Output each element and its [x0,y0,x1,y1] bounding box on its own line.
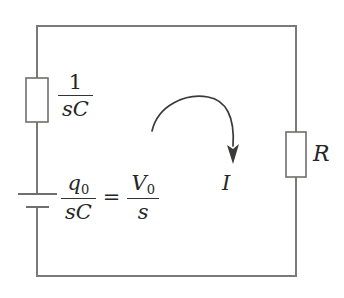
current-label: I [222,173,230,194]
source-left-denominator-s: s [65,200,76,224]
resistor-box [286,132,306,177]
source-right-numerator-v: V [131,171,146,195]
fraction-bar [127,198,158,199]
capacitor-denominator: sC [58,97,93,120]
source-left-numerator-q: q [68,171,81,195]
current-arrow-arc [152,96,233,146]
source-left-numerator-subscript: 0 [81,182,89,197]
fraction-bar [61,198,96,199]
capacitor-denominator-s: s [62,97,73,121]
source-right-numerator-subscript: 0 [147,182,155,197]
fraction-bar [58,95,93,96]
fraction-one-over-sc: 1 sC [58,71,93,120]
source-right-denominator: s [127,200,158,223]
current-arrowhead-icon [227,144,239,164]
equals-sign: = [96,187,128,208]
circuit-diagram: 1 sC q0 sC = V0 s R I [0,0,344,298]
circuit-schematic-canvas [0,0,344,298]
capacitor-impedance-box [26,78,48,122]
source-left-denominator-c: C [76,200,92,224]
source-left-numerator: q0 [61,172,96,197]
resistor-label: R [313,143,330,165]
fraction-v0-over-s: V0 s [127,172,158,223]
source-left-denominator: sC [61,200,96,223]
fraction-q0-over-sc: q0 sC [61,172,96,223]
capacitor-numerator: 1 [58,71,93,94]
capacitor-impedance-label: 1 sC [58,71,93,120]
capacitor-denominator-c: C [73,97,89,121]
source-equation-label: q0 sC = V0 s [61,172,159,223]
source-right-numerator: V0 [127,172,158,197]
